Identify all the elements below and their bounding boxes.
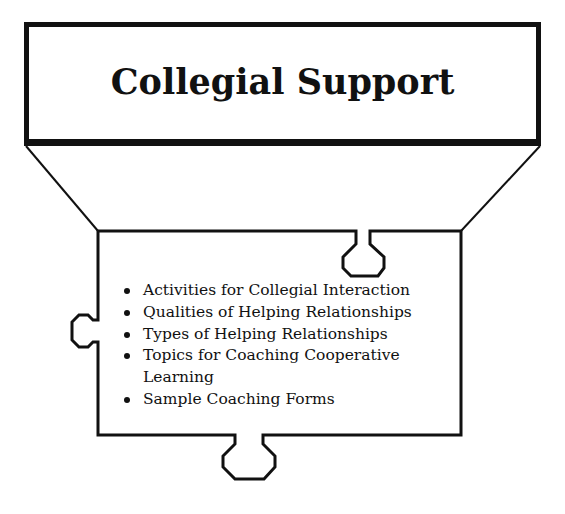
list-item-label: Types of Helping Relationships <box>143 325 388 343</box>
left-connector-line <box>26 146 98 231</box>
diagram-title: Collegial Support <box>111 61 455 102</box>
list-item-label: Qualities of Helping Relationships <box>143 303 412 321</box>
list-item: Types of Helping Relationships <box>118 324 458 346</box>
list-item-label: Topics for Coaching Cooperative Learning <box>143 346 400 386</box>
bullet-icon <box>124 353 130 359</box>
topic-list: Activities for Collegial Interaction Qua… <box>118 280 458 411</box>
list-item: Topics for Coaching Cooperative Learning <box>118 345 458 389</box>
bullet-icon <box>124 332 130 338</box>
list-item-label: Sample Coaching Forms <box>143 390 335 408</box>
list-item: Qualities of Helping Relationships <box>118 302 458 324</box>
diagram-canvas: Collegial Support Activities for Collegi… <box>0 0 565 514</box>
list-item-label: Activities for Collegial Interaction <box>143 281 410 299</box>
bullet-icon <box>124 397 130 403</box>
right-connector-line <box>461 146 540 231</box>
list-item: Sample Coaching Forms <box>118 389 458 411</box>
bullet-icon <box>124 288 130 294</box>
bullet-icon <box>124 310 130 316</box>
list-item: Activities for Collegial Interaction <box>118 280 458 302</box>
title-box: Collegial Support <box>24 22 541 146</box>
